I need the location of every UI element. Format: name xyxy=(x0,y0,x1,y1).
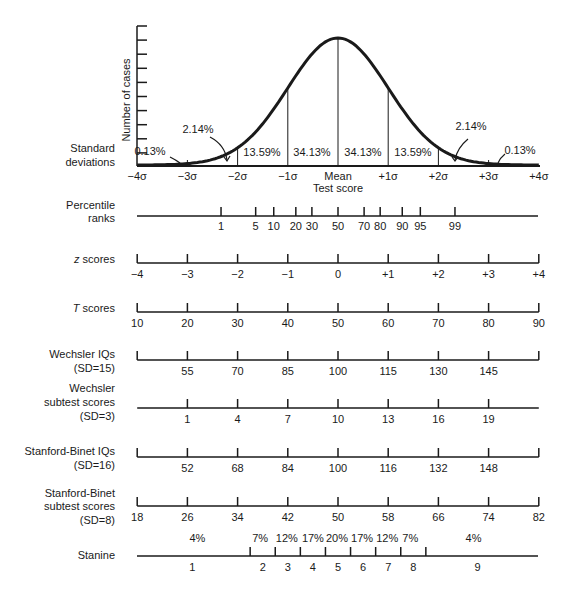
scale-tick-label: 7 xyxy=(385,561,391,573)
scale-tick-label: 12% xyxy=(276,532,298,544)
scale-tick-label: 20 xyxy=(181,317,193,329)
scale-tick-label: 84 xyxy=(282,462,294,474)
sd-tick-label: Mean xyxy=(324,170,352,182)
scale-tick-label: 70 xyxy=(358,220,370,232)
scale-tick-label: 9 xyxy=(474,561,480,573)
area-percent: 2.14% xyxy=(455,120,486,132)
sd-tick-label: +3σ xyxy=(479,170,499,182)
scale-tick-label: 55 xyxy=(181,365,193,377)
scale-tick-label: +1 xyxy=(382,268,395,280)
scale-tick-label: 12% xyxy=(376,532,398,544)
scale-tick-label: 40 xyxy=(282,317,294,329)
scale-tick-label: 50 xyxy=(332,220,344,232)
sd-tick-label: −4σ xyxy=(128,170,148,182)
scale-tick-label: 52 xyxy=(181,462,193,474)
scale-tick-label: 30 xyxy=(306,220,318,232)
sd-dividers xyxy=(187,38,488,165)
scale-tick-label: 1 xyxy=(218,220,224,232)
scale-tick-label: 2 xyxy=(260,561,266,573)
score-scales: 15102030507080909599−4−3−2−10+1+2+3+4102… xyxy=(131,207,545,573)
scale-tick-label: 20% xyxy=(326,532,348,544)
sb-sub-label-3: (SD=8) xyxy=(80,514,115,526)
scale-tick-label: 116 xyxy=(379,462,397,474)
scale-tick-label: 90 xyxy=(396,220,408,232)
scale-tick-label: 60 xyxy=(382,317,394,329)
scale-tick-label: 74 xyxy=(482,511,494,523)
normal-curve-chart: Number of cases 0.13%2.14%13.59%34.13%34… xyxy=(0,0,575,601)
area-percent: 0.13% xyxy=(504,144,535,156)
scale-tick-label: 10 xyxy=(268,220,280,232)
scale-tick-label: 100 xyxy=(329,462,347,474)
scale-tick-label: 17% xyxy=(351,532,373,544)
scale-tick-label: 7 xyxy=(285,413,291,425)
scale-tick-label: 34 xyxy=(231,511,243,523)
scale-tick-label: 68 xyxy=(231,462,243,474)
scale-tick-label: 4% xyxy=(466,532,482,544)
sb-sub-label-1: Stanford-Binet xyxy=(45,487,115,499)
scale-tick-label: 95 xyxy=(414,220,426,232)
scale-tick-label: 115 xyxy=(379,365,397,377)
sb-sub-label-2: subtest scores xyxy=(44,500,115,512)
y-axis-label: Number of cases xyxy=(120,58,132,142)
scale-tick-label: 42 xyxy=(282,511,294,523)
scale-tick-label: −2 xyxy=(231,268,244,280)
wechsler-sub-label-1: Wechsler xyxy=(69,382,115,394)
t-scores-label: T scores xyxy=(73,302,116,314)
scale-tick-label: +3 xyxy=(482,268,495,280)
scale-tick-label: 10 xyxy=(332,413,344,425)
scale-tick-label: 5 xyxy=(253,220,259,232)
scale-tick-label: 70 xyxy=(231,365,243,377)
scale-tick-label: +4 xyxy=(533,268,546,280)
scale-tick-label: 0 xyxy=(335,268,341,280)
scale-tick-label: 82 xyxy=(533,511,545,523)
scale-tick-label: 26 xyxy=(181,511,193,523)
wechsler-iq-label-2: (SD=15) xyxy=(74,362,115,374)
x-axis-label: Test score xyxy=(313,182,363,194)
sd-tick-label: −3σ xyxy=(178,170,198,182)
scale-tick-label: 145 xyxy=(479,365,497,377)
scale-tick-label: 17% xyxy=(302,532,324,544)
scale-tick-label: −3 xyxy=(181,268,194,280)
scale-tick-label: 20 xyxy=(290,220,302,232)
area-percent: 34.13% xyxy=(293,146,331,158)
scale-tick-label: 66 xyxy=(432,511,444,523)
stanine-label: Stanine xyxy=(78,549,115,561)
wechsler-iq-label-1: Wechsler IQs xyxy=(49,348,115,360)
sd-tick-label: +1σ xyxy=(379,170,399,182)
scale-tick-label: 50 xyxy=(332,317,344,329)
area-percent: 34.13% xyxy=(344,146,382,158)
scale-tick-label: 70 xyxy=(432,317,444,329)
sd-tick-label: −1σ xyxy=(278,170,298,182)
std-dev-label-2: deviations xyxy=(65,156,115,168)
area-percent: 13.59% xyxy=(243,146,281,158)
area-percent: 0.13% xyxy=(134,145,165,157)
scale-tick-label: 7% xyxy=(252,532,268,544)
scale-tick-label: 6 xyxy=(360,561,366,573)
scale-tick-label: 30 xyxy=(231,317,243,329)
scale-tick-label: 1 xyxy=(189,561,195,573)
scale-tick-label: 8 xyxy=(410,561,416,573)
percentile-label-2: ranks xyxy=(88,212,115,224)
scale-tick-label: 85 xyxy=(282,365,294,377)
sb-iq-label-2: (SD=16) xyxy=(74,459,115,471)
wechsler-sub-label-3: (SD=3) xyxy=(80,410,115,422)
scale-tick-label: 19 xyxy=(482,413,494,425)
scale-tick-label: 99 xyxy=(449,220,461,232)
scale-tick-label: +2 xyxy=(432,268,445,280)
z-scores-label: z scores xyxy=(73,253,115,265)
scale-tick-label: 4% xyxy=(189,532,205,544)
scale-tick-label: 80 xyxy=(482,317,494,329)
sd-tick-label: +2σ xyxy=(429,170,449,182)
scale-tick-label: 3 xyxy=(285,561,291,573)
scale-tick-label: 100 xyxy=(329,365,347,377)
scale-tick-label: 13 xyxy=(382,413,394,425)
area-percent: 13.59% xyxy=(394,146,432,158)
scale-tick-label: 80 xyxy=(374,220,386,232)
sd-tick-label: −2σ xyxy=(228,170,248,182)
area-percent: 2.14% xyxy=(182,123,213,135)
sd-tick-labels: −4σ−3σ−2σ−1σMean+1σ+2σ+3σ+4σ xyxy=(128,170,549,182)
scale-tick-label: 4 xyxy=(235,413,241,425)
sb-iq-label-1: Stanford-Binet IQs xyxy=(25,445,116,457)
scale-tick-label: 5 xyxy=(335,561,341,573)
std-dev-label-1: Standard xyxy=(70,142,115,154)
